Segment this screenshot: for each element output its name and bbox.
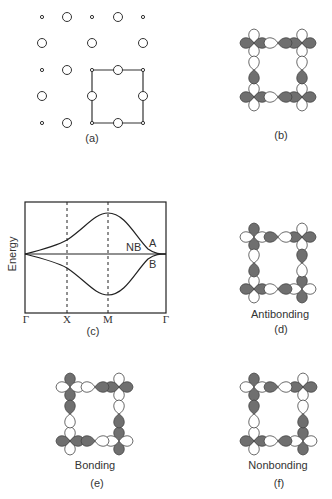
band-b bbox=[25, 254, 166, 295]
panel-d-caption: Antibonding bbox=[251, 308, 309, 320]
panel-f-orbitals bbox=[240, 373, 317, 455]
p-orbital bbox=[264, 382, 292, 393]
p-orbital bbox=[264, 92, 292, 103]
panel-f-label: (f) bbox=[274, 477, 284, 489]
large-atom bbox=[114, 13, 123, 22]
x-tick-x: X bbox=[63, 313, 71, 325]
small-atom bbox=[40, 68, 43, 71]
d-orbital bbox=[56, 373, 84, 401]
small-atom bbox=[141, 121, 144, 124]
d-orbital bbox=[289, 427, 317, 455]
p-orbital bbox=[249, 400, 260, 428]
large-atom bbox=[114, 119, 123, 128]
panel-b-orbitals bbox=[240, 29, 316, 111]
panel-e-caption: Bonding bbox=[75, 459, 115, 471]
p-orbital bbox=[249, 56, 260, 84]
panel-c-band-chart: Energy NB A B Γ X M Γ bbox=[6, 202, 169, 325]
panel-d-orbitals bbox=[240, 223, 316, 303]
p-orbital bbox=[249, 249, 260, 277]
x-tick-gamma-end: Γ bbox=[163, 313, 169, 325]
d-orbital bbox=[289, 373, 317, 401]
large-atom bbox=[139, 92, 148, 101]
small-atom bbox=[40, 121, 43, 124]
panel-f-caption: Nonbonding bbox=[248, 459, 307, 471]
small-atom bbox=[141, 15, 144, 18]
small-atom bbox=[141, 68, 144, 71]
panel-a-lattice bbox=[38, 13, 148, 128]
p-orbital bbox=[297, 249, 308, 277]
large-atom bbox=[88, 39, 97, 48]
small-atom bbox=[90, 121, 93, 124]
large-atom bbox=[139, 39, 148, 48]
x-tick-gamma-start: Γ bbox=[23, 313, 29, 325]
p-orbital bbox=[297, 56, 308, 84]
panel-b-label: (b) bbox=[274, 129, 287, 141]
small-atom bbox=[40, 15, 43, 18]
p-orbital bbox=[65, 400, 76, 428]
large-atom bbox=[63, 13, 72, 22]
unit-cell-square bbox=[92, 70, 143, 123]
x-tick-m: M bbox=[103, 313, 113, 325]
panel-c-label: (c) bbox=[87, 325, 100, 337]
band-label-b: B bbox=[149, 258, 156, 270]
p-orbital bbox=[264, 38, 292, 49]
small-atom bbox=[90, 15, 93, 18]
large-atom bbox=[63, 66, 72, 75]
figure: (a) bbox=[0, 0, 332, 499]
p-orbital bbox=[81, 382, 109, 393]
p-orbital bbox=[264, 436, 292, 447]
chart-frame bbox=[25, 202, 166, 313]
large-atom bbox=[88, 92, 97, 101]
d-orbital bbox=[56, 427, 84, 455]
panel-d-label: (d) bbox=[274, 323, 287, 335]
large-atom bbox=[114, 66, 123, 75]
large-atom bbox=[38, 39, 47, 48]
p-orbital bbox=[264, 232, 292, 243]
panel-e-orbitals bbox=[56, 373, 133, 455]
p-orbital bbox=[114, 400, 125, 428]
large-atom bbox=[63, 119, 72, 128]
p-orbital bbox=[264, 284, 292, 295]
panel-e-label: (e) bbox=[90, 477, 103, 489]
large-atom bbox=[38, 92, 47, 101]
p-orbital bbox=[298, 400, 309, 428]
band-label-a: A bbox=[149, 237, 157, 249]
y-axis-label: Energy bbox=[6, 236, 18, 271]
p-orbital bbox=[81, 436, 109, 447]
small-atom bbox=[90, 68, 93, 71]
panel-a-label: (a) bbox=[85, 132, 98, 144]
band-label-nb: NB bbox=[126, 241, 141, 253]
band-a bbox=[25, 213, 166, 254]
